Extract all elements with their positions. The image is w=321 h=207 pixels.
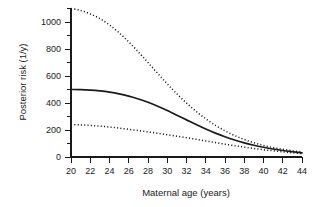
curve-lower-bound	[71, 125, 302, 154]
x-tick-label: 36	[220, 166, 230, 176]
y-tick-label: 800	[46, 44, 61, 54]
x-tick-label: 30	[162, 166, 172, 176]
curve-posterior-risk	[71, 90, 302, 153]
x-axis-group: 20222426283032343638404244	[66, 157, 307, 176]
y-tick-label: 600	[46, 71, 61, 81]
x-tick-label: 32	[181, 166, 191, 176]
x-tick-label: 34	[201, 166, 211, 176]
x-tick-label: 38	[239, 166, 249, 176]
y-tick-label: 200	[46, 125, 61, 135]
x-tick-label: 22	[85, 166, 95, 176]
y-tick-label: 1000	[41, 17, 61, 27]
x-tick-label: 28	[143, 166, 153, 176]
data-curves	[71, 9, 302, 154]
x-axis-title: Maternal age (years)	[142, 187, 230, 198]
x-tick-label: 44	[297, 166, 307, 176]
chart-plot-area: 02004006008001000 2022242628303234363840…	[0, 0, 321, 207]
y-axis-group: 02004006008001000	[41, 8, 71, 162]
y-axis-title: Posterior risk (1/y)	[17, 43, 28, 120]
y-tick-labels: 02004006008001000	[41, 17, 61, 162]
y-tick-label: 400	[46, 98, 61, 108]
x-tick-label: 42	[278, 166, 288, 176]
x-tick-labels: 20222426283032343638404244	[66, 166, 307, 176]
curve-upper-bound	[71, 9, 302, 153]
x-tick-label: 40	[258, 166, 268, 176]
chart-figure: 02004006008001000 2022242628303234363840…	[0, 0, 321, 207]
x-tick-label: 20	[66, 166, 76, 176]
x-tick-label: 26	[124, 166, 134, 176]
y-tick-label: 0	[56, 152, 61, 162]
x-tick-label: 24	[104, 166, 114, 176]
x-tick-marks	[71, 157, 302, 163]
